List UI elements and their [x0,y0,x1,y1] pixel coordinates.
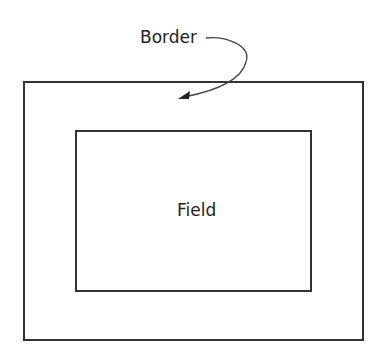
border-label: Border [140,27,197,47]
field-label: Field [177,200,216,220]
diagram-canvas [0,0,388,348]
arrow-head-icon [178,91,190,99]
